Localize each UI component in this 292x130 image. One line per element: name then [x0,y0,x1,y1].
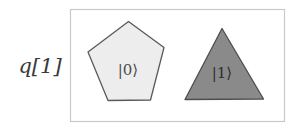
state-zero-label: |0⟩ [118,61,138,79]
state-one-label: |1⟩ [212,64,232,82]
qubit-label: q[1] [14,51,66,81]
